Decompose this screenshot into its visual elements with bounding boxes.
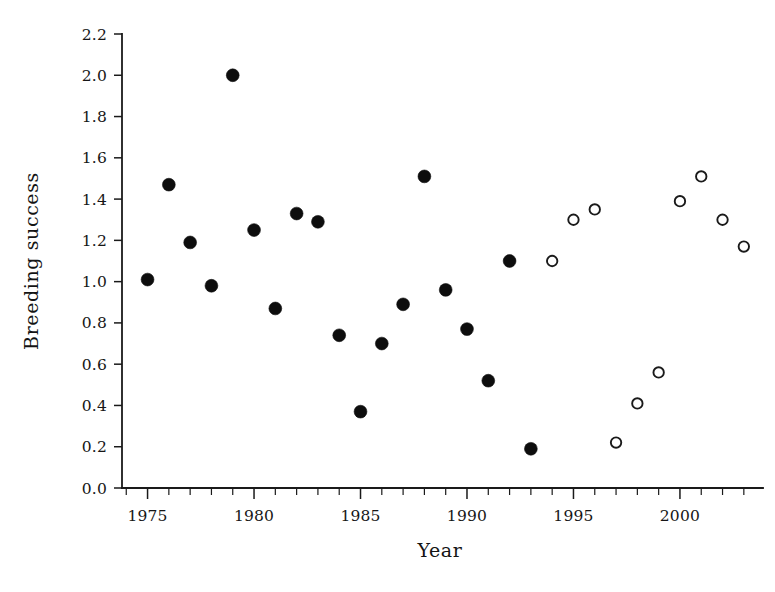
y-axis-ticks	[114, 34, 122, 488]
chart-figure: 0.00.20.40.60.81.01.21.41.61.82.02.2 197…	[0, 0, 775, 592]
data-point-filled	[524, 442, 537, 455]
data-point-filled	[439, 283, 452, 296]
y-tick-label: 1.6	[82, 149, 107, 167]
data-point-open	[739, 241, 749, 251]
x-tick-label: 1995	[553, 507, 593, 525]
data-point-filled	[226, 69, 239, 82]
x-tick-label: 2000	[660, 507, 700, 525]
y-tick-label: 1.8	[82, 108, 107, 126]
y-tick-label: 1.0	[82, 273, 107, 291]
data-point-open	[590, 204, 600, 214]
data-point-filled	[418, 170, 431, 183]
y-tick-label: 0.2	[82, 438, 107, 456]
series-open-circles	[547, 171, 749, 448]
data-point-filled	[269, 302, 282, 315]
data-point-filled	[333, 329, 346, 342]
y-tick-label: 2.2	[82, 26, 107, 44]
data-point-open	[717, 215, 727, 225]
data-point-filled	[184, 236, 197, 249]
y-tick-label: 0.8	[82, 314, 107, 332]
data-point-filled	[162, 178, 175, 191]
data-point-filled	[141, 273, 154, 286]
x-tick-label: 1990	[447, 507, 487, 525]
data-point-filled	[248, 224, 261, 237]
x-axis-tick-labels: 197519801985199019952000	[127, 507, 700, 525]
data-point-open	[675, 196, 685, 206]
data-point-filled	[503, 255, 516, 268]
y-tick-label: 1.2	[82, 232, 107, 250]
data-point-filled	[482, 374, 495, 387]
y-tick-label: 0.4	[82, 397, 107, 415]
data-point-filled	[354, 405, 367, 418]
data-point-open	[547, 256, 557, 266]
y-tick-label: 2.0	[82, 67, 107, 85]
data-point-group	[141, 69, 749, 455]
x-tick-label: 1980	[234, 507, 274, 525]
data-point-open	[611, 437, 621, 447]
axes-lines	[122, 34, 763, 488]
x-tick-label: 1985	[340, 507, 380, 525]
y-tick-label: 0.0	[82, 480, 107, 498]
y-tick-label: 1.4	[82, 191, 107, 209]
x-axis-ticks	[126, 488, 744, 499]
data-point-filled	[205, 279, 218, 292]
data-point-filled	[312, 215, 325, 228]
data-point-open	[696, 171, 706, 181]
data-point-open	[568, 215, 578, 225]
data-point-filled	[375, 337, 388, 350]
x-tick-label: 1975	[127, 507, 167, 525]
series-filled-circles	[141, 69, 537, 455]
scatter-plot: 0.00.20.40.60.81.01.21.41.61.82.02.2 197…	[0, 0, 775, 592]
data-point-open	[632, 398, 642, 408]
data-point-filled	[461, 323, 474, 336]
y-tick-label: 0.6	[82, 356, 107, 374]
data-point-filled	[397, 298, 410, 311]
y-axis-title: Breeding success	[20, 172, 42, 350]
data-point-filled	[290, 207, 303, 220]
y-axis-tick-labels: 0.00.20.40.60.81.01.21.41.61.82.02.2	[82, 26, 107, 498]
data-point-open	[653, 367, 663, 377]
x-axis-title: Year	[417, 539, 463, 561]
